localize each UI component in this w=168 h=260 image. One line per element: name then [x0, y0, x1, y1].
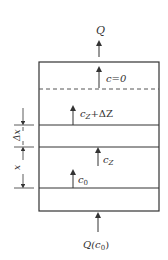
delta-x-label: Δx: [12, 129, 22, 142]
inlet-label: Q(c0): [83, 239, 109, 252]
outlet-label: Q: [96, 24, 105, 37]
x-label: x: [12, 165, 22, 170]
cz-plus-label: cZ+ΔZ: [80, 108, 113, 121]
column-diagram: Q c=0 cZ+ΔZ cZ c0 Q(c0) Δx x: [0, 0, 168, 260]
c-zero-label: c=0: [106, 73, 127, 84]
c0-label: c0: [78, 174, 88, 187]
cz-label: cZ: [103, 154, 114, 167]
